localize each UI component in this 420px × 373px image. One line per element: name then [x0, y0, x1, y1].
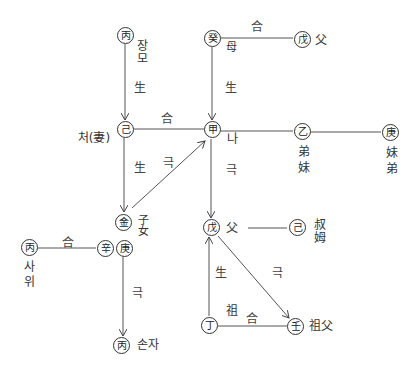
node-byeong-grandchild: 丙	[113, 337, 130, 354]
edge-label-hap: 合	[62, 237, 74, 249]
node-gyeong-siblings: 庚	[382, 124, 399, 141]
edge-label-saeng: 生	[134, 162, 146, 174]
node-gap-self: 甲	[204, 121, 221, 138]
edge-label-geuk: 극	[132, 287, 143, 299]
label-wife: 처(妻)	[78, 132, 110, 144]
label-children: 子女	[137, 214, 148, 236]
edge-label-hap: 合	[161, 113, 173, 125]
node-gi-wife: 己	[117, 121, 134, 138]
node-mu-father: 戊	[203, 219, 220, 236]
label-aunt: 叔姆	[312, 218, 324, 244]
edge-label-hap: 合	[251, 21, 263, 33]
edge-label-saeng: 生	[134, 82, 146, 94]
label-son-in-law: 사위	[22, 260, 34, 290]
node-byeong-son-in-law: 丙	[21, 239, 38, 256]
label-grand: 祖	[226, 305, 238, 317]
node-jeong: 丁	[201, 317, 218, 334]
node-sin: 辛	[97, 240, 114, 257]
edge-label-saeng: 生	[215, 267, 227, 279]
label-father-top: 父	[315, 34, 327, 46]
label-grandchild: 손자	[137, 339, 159, 351]
edge-label-saeng: 生	[225, 82, 237, 94]
node-mu-father-top: 戊	[294, 31, 311, 48]
node-gi-aunt: 己	[289, 219, 306, 236]
node-geum-children: 金	[115, 214, 132, 231]
label-self: 나	[227, 133, 238, 145]
label-siblings-eul: 弟妹	[296, 145, 308, 177]
node-eul-siblings: 乙	[294, 123, 311, 140]
node-gyeong-mid: 庚	[116, 240, 133, 257]
edge-label-geuk: 극	[272, 267, 283, 279]
edge-label-hap: 合	[246, 313, 258, 325]
family-relations-diagram: 丙 癸 戊 己 甲 乙 庚 金 辛 庚 丙 丙 戊 己 丁 壬 장모 母 父 처…	[0, 0, 420, 373]
label-grandfather: 祖父	[309, 320, 333, 332]
node-im-grandfather: 壬	[287, 318, 304, 335]
label-father: 父	[226, 222, 238, 234]
edge-label-geuk: 극	[163, 157, 174, 169]
edge-label-geuk: 극	[226, 164, 237, 176]
node-byeong-mother-in-law: 丙	[117, 27, 134, 44]
label-siblings-gyeong: 妹弟	[384, 146, 396, 178]
label-mother-in-law: 장모	[135, 39, 147, 65]
node-gye-mother: 癸	[204, 30, 221, 47]
label-mother: 母	[226, 42, 237, 54]
